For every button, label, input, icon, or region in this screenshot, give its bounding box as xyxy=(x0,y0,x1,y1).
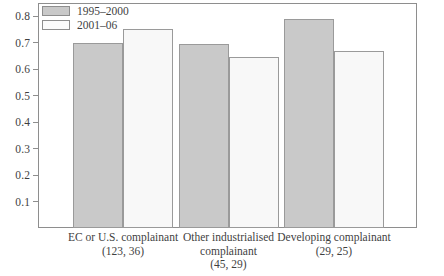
x-axis: EC or U.S. complainant(123, 36)Other ind… xyxy=(38,231,417,276)
bars-layer xyxy=(38,3,417,228)
y-axis-tick: 0.6 xyxy=(15,62,38,76)
legend-swatch xyxy=(42,6,70,16)
y-axis-tick-label: 0.5 xyxy=(15,90,33,102)
y-axis-tick: 0.4 xyxy=(15,115,38,129)
y-axis-tick: 0.3 xyxy=(15,142,38,156)
x-axis-category-counts: (45, 29) xyxy=(154,258,304,272)
bar xyxy=(73,43,123,228)
y-axis-tick-label: 0.1 xyxy=(15,196,33,208)
legend-label: 2001–06 xyxy=(77,19,117,31)
y-axis-tick-label: 0.8 xyxy=(15,10,33,22)
legend-swatch xyxy=(42,20,70,30)
x-axis-category-counts: (29, 25) xyxy=(259,245,409,259)
bar-chart-figure: 0.10.20.30.40.50.60.70.8 EC or U.S. comp… xyxy=(0,0,444,276)
y-axis-tick-label: 0.7 xyxy=(15,37,33,49)
y-axis-tick: 0.8 xyxy=(15,9,38,23)
y-axis-tick: 0.7 xyxy=(15,36,38,50)
legend-item: 1995–2000 xyxy=(42,5,162,17)
y-axis-tick-label: 0.2 xyxy=(15,169,33,181)
bar xyxy=(179,44,229,228)
y-axis: 0.10.20.30.40.50.60.70.8 xyxy=(0,0,38,276)
y-axis-tick-label: 0.6 xyxy=(15,63,33,75)
bar xyxy=(229,57,279,228)
bar xyxy=(123,29,173,228)
y-axis-tick-label: 0.3 xyxy=(15,143,33,155)
x-axis-group-label: Developing complainant(29, 25) xyxy=(259,231,409,258)
legend-label: 1995–2000 xyxy=(77,5,129,17)
y-axis-tick: 0.2 xyxy=(15,168,38,182)
y-axis-tick: 0.1 xyxy=(15,195,38,209)
y-axis-tick: 0.5 xyxy=(15,89,38,103)
bar xyxy=(334,51,384,228)
x-axis-category-name: Developing complainant xyxy=(259,231,409,245)
y-axis-tick-label: 0.4 xyxy=(15,116,33,128)
bar xyxy=(284,19,334,228)
